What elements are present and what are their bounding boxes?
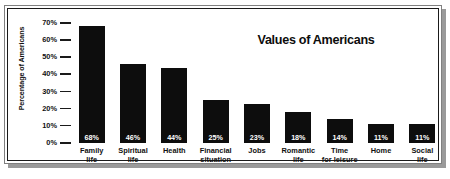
x-axis-category-label-line: life xyxy=(402,156,443,165)
x-axis-category-label-line: Home xyxy=(360,147,401,156)
x-axis-category-label-line: life xyxy=(112,156,153,165)
y-axis-tick-label: 10% xyxy=(42,121,57,131)
x-axis-category-label: Health xyxy=(154,147,195,156)
y-axis-tick: 30% xyxy=(25,87,71,97)
chart-frame: Percentage of Americans 70%60%50%40%30%2… xyxy=(4,5,442,164)
bar[interactable]: 11% xyxy=(409,124,435,143)
bar[interactable]: 68% xyxy=(79,26,105,143)
y-axis-tick-label: 60% xyxy=(42,35,57,45)
bar[interactable]: 25% xyxy=(203,100,229,143)
bar-value-label: 11% xyxy=(409,133,435,142)
y-axis-tick: 40% xyxy=(25,69,71,79)
bar-value-label: 44% xyxy=(161,133,187,142)
y-axis-tick-label: 30% xyxy=(42,87,57,97)
bar-value-label: 25% xyxy=(203,133,229,142)
y-axis-tick: 0% xyxy=(25,138,71,148)
y-axis-tick-label: 50% xyxy=(42,52,57,62)
y-axis-tick-mark xyxy=(60,108,71,110)
x-axis-category-label: Jobs xyxy=(236,147,277,156)
y-axis-tick: 20% xyxy=(25,104,71,114)
y-axis-tick-mark xyxy=(60,125,71,127)
y-axis-tick-label: 40% xyxy=(42,69,57,79)
x-axis-category-label-line: life xyxy=(278,156,319,165)
y-axis-tick-label: 70% xyxy=(42,18,57,28)
chart-figure: Percentage of Americans 70%60%50%40%30%2… xyxy=(0,0,450,179)
bar-value-label: 18% xyxy=(285,133,311,142)
y-axis-tick-label: 20% xyxy=(42,104,57,114)
bar-value-label: 46% xyxy=(120,133,146,142)
bar[interactable]: 14% xyxy=(327,119,353,143)
bar-slot: 68% xyxy=(79,23,105,143)
x-axis-category-label: Spirituallife xyxy=(112,147,153,164)
y-axis-tick: 50% xyxy=(25,52,71,62)
bar[interactable]: 44% xyxy=(161,68,187,143)
x-axis-category-label: Familylife xyxy=(71,147,112,164)
x-axis-category-label-line: Jobs xyxy=(236,147,277,156)
x-axis-category-label-line: situation xyxy=(195,156,236,165)
y-axis-tick-label: 0% xyxy=(46,138,57,148)
x-axis-category-label: Home xyxy=(360,147,401,156)
y-axis-tick: 70% xyxy=(25,18,71,28)
y-axis-tick: 60% xyxy=(25,35,71,45)
bar[interactable]: 46% xyxy=(120,64,146,143)
bar[interactable]: 11% xyxy=(368,124,394,143)
y-axis-tick-mark xyxy=(60,142,71,144)
y-axis-tick-mark xyxy=(60,39,71,41)
y-axis-tick-mark xyxy=(60,22,71,24)
bar-slot: 46% xyxy=(120,23,146,143)
bar[interactable]: 18% xyxy=(285,112,311,143)
x-axis-category-label: Timefor leisure xyxy=(319,147,360,164)
x-axis-category-label-line: Health xyxy=(154,147,195,156)
y-axis-tick-mark xyxy=(60,56,71,58)
x-axis-category-label: Romanticlife xyxy=(278,147,319,164)
bar-slot: 44% xyxy=(161,23,187,143)
bar-value-label: 23% xyxy=(244,133,270,142)
x-axis-category-label: Sociallife xyxy=(402,147,443,164)
bar-value-label: 68% xyxy=(79,133,105,142)
bar-value-label: 11% xyxy=(368,133,394,142)
x-axis-category-label-line: life xyxy=(71,156,112,165)
x-axis-category-label-line: for leisure xyxy=(319,156,360,165)
bar[interactable]: 23% xyxy=(244,104,270,143)
bar-value-label: 14% xyxy=(327,133,353,142)
y-axis-tick: 10% xyxy=(25,121,71,131)
y-axis-tick-mark xyxy=(60,91,71,93)
chart-title: Values of Americans xyxy=(201,33,431,47)
y-axis-tick-mark xyxy=(60,73,71,75)
x-axis-category-label: Financialsituation xyxy=(195,147,236,164)
